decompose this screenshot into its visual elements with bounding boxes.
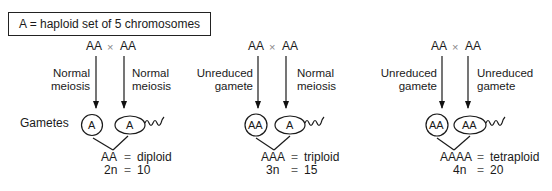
parent-right: AA <box>465 40 481 53</box>
result-count: 20 <box>490 164 503 177</box>
cross-symbol: × <box>107 41 113 53</box>
sperm-label: A <box>126 119 133 132</box>
parent-right: AA <box>120 40 136 53</box>
egg-label: AA <box>248 119 263 132</box>
result-formula: 3n <box>266 164 279 177</box>
result-count: 15 <box>304 164 317 177</box>
cross-symbol: × <box>452 41 458 53</box>
egg-label: A <box>88 119 95 132</box>
parent-left: AA <box>248 40 264 53</box>
cross-symbol: × <box>269 41 275 53</box>
result-formula: 4n <box>453 164 466 177</box>
right-pathway-label: Unreducedgamete <box>477 67 533 93</box>
left-pathway-label: Unreducedgamete <box>373 67 437 93</box>
left-pathway-label: Normalmeiosis <box>44 67 90 93</box>
parent-left: AA <box>431 40 447 53</box>
left-pathway-label: Unreducedgamete <box>190 67 253 93</box>
right-pathway-label: Normalmeiosis <box>297 67 336 93</box>
parent-left: AA <box>86 40 102 53</box>
parent-right: AA <box>282 40 298 53</box>
sperm-label: AA <box>462 119 477 132</box>
result-formula: 2n <box>104 164 117 177</box>
result-count: 10 <box>137 164 150 177</box>
sperm-tail-p1 <box>145 117 164 126</box>
right-pathway-label: Normalmeiosis <box>132 67 171 93</box>
sperm-label: A <box>286 119 293 132</box>
egg-label: AA <box>429 119 444 132</box>
